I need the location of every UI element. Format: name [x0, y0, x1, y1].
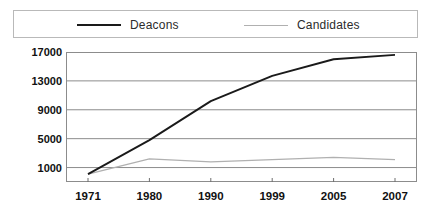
x-axis-tick-label: 2005: [321, 190, 347, 202]
x-axis-tick-label: 2007: [382, 190, 408, 202]
x-axis-tick-label: 1980: [137, 190, 163, 202]
line-chart: Deacons Candidates 170001300090005000100…: [0, 0, 430, 219]
x-axis-tick-label: 1990: [198, 190, 224, 202]
x-axis-tick-label: 1971: [75, 190, 101, 202]
x-axis-tick-label: 1999: [259, 190, 285, 202]
x-axis-labels: 197119801990199920052007: [0, 0, 430, 219]
